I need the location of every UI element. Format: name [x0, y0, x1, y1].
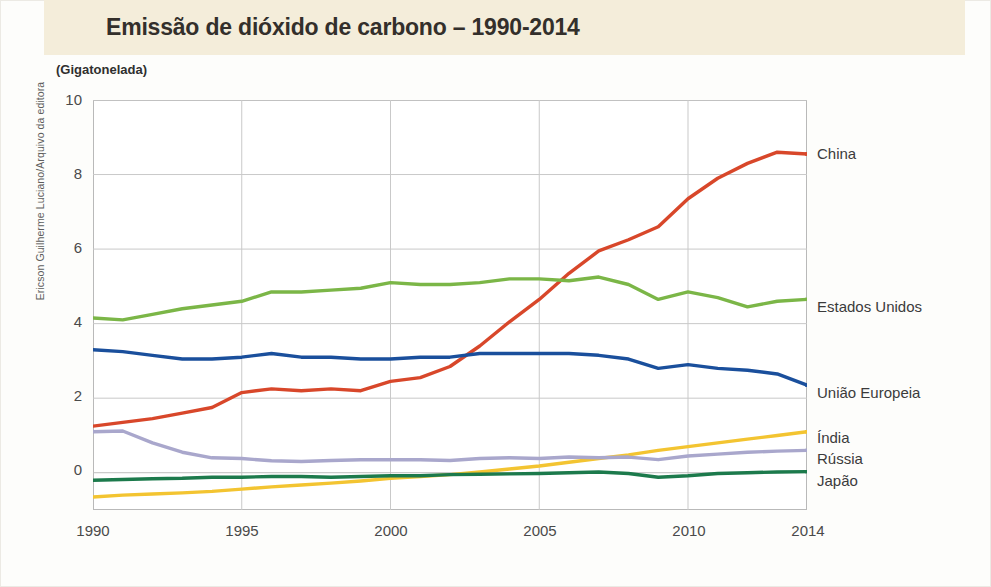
series-índia	[93, 432, 807, 497]
title-band: Emissão de dióxido de carbono – 1990-201…	[44, 0, 965, 55]
y-tick-2: 2	[42, 387, 82, 404]
page-title: Emissão de dióxido de carbono – 1990-201…	[106, 14, 580, 41]
series-label-uniao-europeia: União Europeia	[817, 384, 920, 401]
y-tick-10: 10	[42, 91, 82, 108]
series-label-russia: Rússia	[817, 450, 863, 467]
chart-canvas	[93, 100, 807, 510]
x-tick-2000: 2000	[356, 522, 426, 539]
series-estados-unidos	[93, 277, 807, 320]
chart-page: Emissão de dióxido de carbono – 1990-201…	[0, 0, 991, 587]
x-tick-1995: 1995	[207, 522, 277, 539]
x-tick-1990: 1990	[58, 522, 128, 539]
series-label-japao: Japão	[817, 472, 858, 489]
y-tick-6: 6	[42, 239, 82, 256]
series-label-china: China	[817, 145, 856, 162]
x-tick-2014: 2014	[773, 522, 843, 539]
plot-area	[93, 100, 807, 510]
series-label-estados-unidos: Estados Unidos	[817, 298, 922, 315]
x-tick-2010: 2010	[654, 522, 724, 539]
unit-caption: (Gigatonelada)	[56, 62, 147, 77]
y-tick-0: 0	[42, 461, 82, 478]
y-tick-8: 8	[42, 165, 82, 182]
y-tick-4: 4	[42, 313, 82, 330]
series-label-india: Índia	[817, 429, 850, 446]
series-china	[93, 152, 807, 426]
x-tick-2005: 2005	[505, 522, 575, 539]
